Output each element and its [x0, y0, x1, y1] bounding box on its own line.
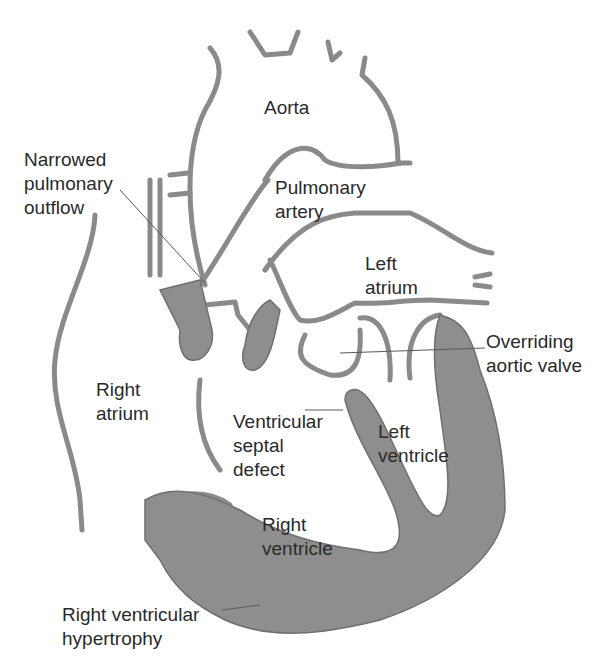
connector	[170, 173, 190, 195]
aorta-branch-right	[362, 58, 410, 163]
aorta-arch	[190, 48, 219, 285]
label-right-ventricle: Right ventricle	[262, 513, 333, 561]
aorta-branch-left	[250, 32, 298, 55]
label-pulmonary-artery: Pulmonary artery	[275, 176, 366, 224]
label-aorta: Aorta	[264, 96, 309, 120]
myocardium	[145, 315, 505, 633]
aorta-branch-mid	[328, 42, 340, 60]
label-right-ventricular-hypertrophy: Right ventricular hypertrophy	[62, 603, 199, 651]
label-left-ventricle: Left ventricle	[378, 420, 449, 468]
label-narrowed-pulmonary-outflow: Narrowed pulmonary outflow	[24, 148, 113, 220]
valve-flap-3	[360, 318, 390, 380]
pulmonary-artery-outline	[200, 180, 268, 285]
svc	[150, 180, 160, 275]
label-right-atrium: Right atrium	[96, 378, 149, 426]
septum-thin	[199, 380, 220, 470]
left-atrium-notch	[475, 274, 490, 287]
pulmonary-wall	[160, 280, 213, 360]
aortic-valve-wall	[243, 300, 280, 370]
right-atrium-outline	[54, 215, 95, 530]
label-ventricular-septal-defect: Ventricular septal defect	[233, 410, 323, 482]
label-overriding-aortic-valve: Overriding aortic valve	[486, 330, 582, 378]
label-left-atrium: Left atrium	[365, 252, 418, 300]
